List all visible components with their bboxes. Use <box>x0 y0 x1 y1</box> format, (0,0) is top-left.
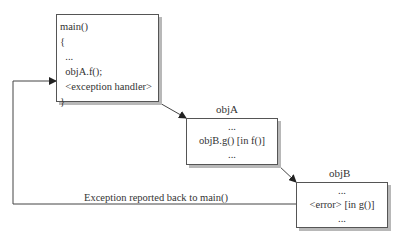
code-line: } <box>60 94 158 109</box>
arrow-objA-to-objB <box>278 165 296 182</box>
code-line: objB.g() [in f()] <box>187 134 277 148</box>
code-line: objA.f(); <box>60 64 158 79</box>
code-line: ... <box>297 212 387 226</box>
objA-box: ... objB.g() [in f()] ... <box>186 118 278 165</box>
return-path-label: Exception reported back to main() <box>84 192 228 203</box>
code-line: ... <box>187 148 277 162</box>
objB-title: objB <box>329 167 350 179</box>
code-line: ... <box>187 120 277 134</box>
arrow-main-to-objA <box>158 102 186 118</box>
code-line: ... <box>297 184 387 198</box>
code-line: <exception handler> <box>60 79 158 94</box>
code-line: ... <box>60 49 158 64</box>
code-line: <error> [in g()] <box>297 198 387 212</box>
objA-title: objA <box>216 103 238 115</box>
objB-box: ... <error> [in g()] ... <box>296 182 388 228</box>
code-line: { <box>60 34 158 49</box>
main-function-box: main() { ... objA.f(); <exception handle… <box>56 14 159 102</box>
code-line: main() <box>60 19 158 34</box>
